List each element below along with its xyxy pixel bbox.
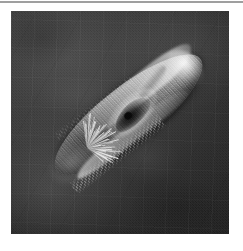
- micrograph-canvas: [11, 11, 229, 234]
- micrograph-plate: [11, 11, 229, 234]
- figure-page: [0, 0, 243, 251]
- page-top-rule: [0, 1, 243, 3]
- grain-overlay: [11, 11, 229, 234]
